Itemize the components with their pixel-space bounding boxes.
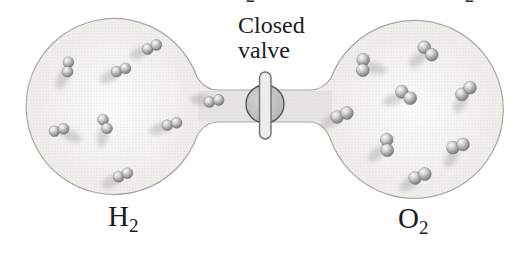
atom-sphere: [213, 95, 224, 106]
atom-sphere: [425, 48, 438, 61]
o2-subscript: 2: [419, 217, 429, 238]
atom-sphere: [356, 64, 369, 77]
atom-sphere: [204, 96, 215, 107]
atom-sphere: [171, 117, 182, 128]
valve-label-line1: Closed: [238, 13, 305, 38]
valve-handle: [260, 72, 272, 139]
atom-sphere: [102, 123, 113, 134]
atom-sphere: [381, 144, 394, 157]
figure-canvas: Closed valve H2 O2 2 2: [0, 0, 516, 257]
h2-symbol: H: [108, 200, 129, 232]
atom-sphere: [58, 123, 69, 134]
clipped-text-fragment: 2: [246, 0, 260, 6]
atom-sphere: [120, 63, 131, 74]
atom-sphere: [418, 168, 431, 181]
atom-sphere: [340, 107, 353, 120]
atom-sphere: [122, 168, 133, 179]
valve-label: Closed valve: [238, 13, 305, 63]
o2-label: O2: [398, 204, 428, 233]
o2-symbol: O: [398, 202, 419, 234]
valve-label-line2: valve: [238, 38, 305, 63]
atom-sphere: [404, 92, 417, 105]
h2-subscript: 2: [129, 215, 139, 236]
atom-sphere: [151, 39, 162, 50]
atom-sphere: [464, 81, 477, 94]
atom-sphere: [62, 66, 73, 77]
h2-label: H2: [108, 202, 138, 231]
clipped-text-fragment: 2: [465, 0, 479, 7]
atom-sphere: [457, 138, 470, 151]
